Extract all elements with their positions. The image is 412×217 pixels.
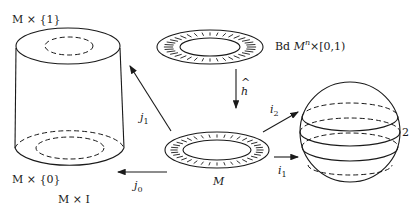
label-j1: j1	[137, 111, 149, 126]
j1-arrow	[130, 66, 171, 131]
label-h-hat-accent: ^	[241, 76, 250, 89]
label-manifold-m: M	[212, 175, 225, 188]
label-sphere-2: 2	[402, 126, 409, 139]
collar-annulus	[157, 30, 263, 64]
label-i2: i2	[270, 103, 279, 118]
i2-arrow	[263, 112, 298, 132]
label-collar: Bd Mn×[0,1)	[275, 38, 345, 53]
manifold-annulus	[165, 132, 269, 168]
label-i1: i1	[278, 164, 287, 179]
sphere	[300, 82, 400, 182]
label-j0: j0	[131, 179, 143, 194]
label-m-times-1: M × {1}	[12, 13, 60, 26]
cylinder-m-times-i	[15, 28, 124, 165]
label-m-times-i: M × I	[58, 193, 90, 206]
diagram-canvas: M × {1} M × {0} M × I Bd Mn×[0,1) M 2 h …	[0, 0, 412, 217]
label-m-times-0: M × {0}	[12, 173, 60, 186]
